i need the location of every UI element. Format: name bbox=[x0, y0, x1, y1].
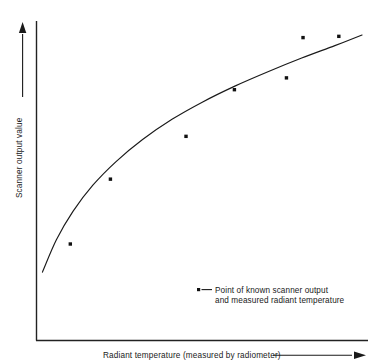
legend-line-1: Point of known scanner output bbox=[215, 286, 329, 295]
data-point bbox=[301, 36, 304, 39]
legend: Point of known scanner output and measur… bbox=[197, 286, 345, 306]
calibration-curve bbox=[42, 35, 362, 272]
data-point bbox=[233, 88, 236, 91]
right-arrow-icon bbox=[354, 351, 366, 359]
legend-line-2: and measured radiant temperature bbox=[215, 296, 345, 305]
chart-canvas: Scanner output value Radiant temperature… bbox=[0, 0, 380, 364]
data-point bbox=[69, 242, 72, 245]
up-arrow-icon bbox=[19, 22, 26, 33]
x-axis-title-group: Radiant temperature (measured by radiome… bbox=[103, 351, 366, 360]
data-point bbox=[285, 76, 288, 79]
square-point-marker-icon bbox=[197, 288, 200, 291]
y-axis-title: Scanner output value bbox=[15, 117, 24, 198]
data-point bbox=[184, 135, 187, 138]
chart-figure: Scanner output value Radiant temperature… bbox=[0, 0, 380, 364]
data-point-group bbox=[69, 35, 341, 246]
data-point bbox=[109, 177, 112, 180]
data-point bbox=[337, 35, 340, 38]
x-axis-title: Radiant temperature (measured by radiome… bbox=[103, 351, 281, 360]
y-axis-title-group: Scanner output value bbox=[15, 22, 27, 198]
